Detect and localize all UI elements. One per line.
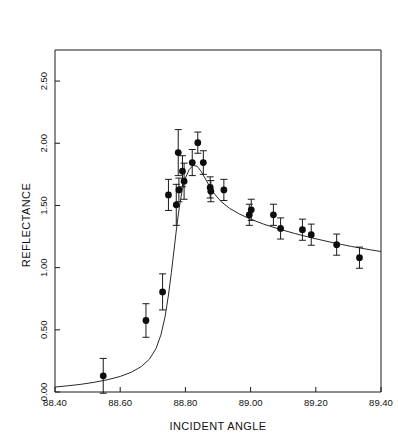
y-tick-label: 0.50 — [38, 321, 49, 340]
data-point-marker — [159, 288, 166, 295]
data-point-marker — [308, 231, 315, 238]
data-point-marker — [100, 372, 107, 379]
y-axis-ticks — [55, 81, 60, 392]
y-axis-title: REFLECTANCE — [20, 183, 32, 267]
x-axis-ticks — [55, 387, 381, 392]
y-tick-label: 2.50 — [38, 72, 49, 91]
fitted-curve — [55, 165, 381, 387]
data-point-marker — [277, 225, 284, 232]
data-point-marker — [165, 191, 172, 198]
data-point-marker — [356, 254, 363, 261]
fit-curve-path — [55, 165, 381, 387]
data-point-marker — [270, 211, 277, 218]
data-point-marker — [200, 159, 207, 166]
data-point-marker — [175, 149, 182, 156]
y-tick-label: 2.00 — [38, 134, 49, 153]
x-tick-label: 89.20 — [304, 397, 328, 408]
data-point-marker — [333, 241, 340, 248]
data-point-marker — [248, 206, 255, 213]
y-axis-tick-labels: 0.000.501.001.502.002.50 — [38, 72, 49, 401]
plot-frame — [55, 50, 381, 392]
x-axis-tick-labels: 88.4088.6088.8089.0089.2089.40 — [43, 397, 393, 408]
x-tick-label: 88.60 — [108, 397, 132, 408]
y-tick-label: 1.00 — [38, 258, 49, 277]
x-tick-label: 89.40 — [369, 397, 393, 408]
y-tick-label: 0.00 — [38, 383, 49, 402]
data-point-marker — [143, 317, 150, 324]
data-point-marker — [175, 187, 182, 194]
x-tick-label: 88.80 — [174, 397, 198, 408]
reflectance-chart-figure: 88.4088.6088.8089.0089.2089.40 0.000.501… — [0, 0, 398, 445]
x-axis-title: INCIDENT ANGLE — [169, 420, 266, 432]
data-point-marker — [179, 168, 186, 175]
error-bars — [100, 130, 363, 394]
data-point-marker — [181, 178, 188, 185]
data-point-marker — [189, 159, 196, 166]
x-tick-label: 89.00 — [239, 397, 263, 408]
data-point-marker — [173, 201, 180, 208]
data-point-marker — [220, 187, 227, 194]
y-tick-label: 1.50 — [38, 196, 49, 215]
data-points — [100, 139, 363, 379]
data-point-marker — [207, 188, 214, 195]
data-point-marker — [194, 139, 201, 146]
reflectance-vs-incident-angle-plot: 88.4088.6088.8089.0089.2089.40 0.000.501… — [0, 0, 398, 445]
data-point-marker — [299, 226, 306, 233]
